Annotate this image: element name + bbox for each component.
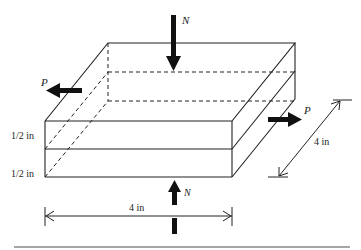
block-shear-diagram: N N P P 1/2 in 1/2 in 4 in 4 in [0,0,361,250]
normal-force-bottom-arrow-icon [168,180,181,234]
layer-thickness-bottom-label: 1/2 in [11,168,34,179]
shear-force-right-label: P [303,104,311,116]
normal-force-top-label: N [181,14,190,26]
shear-force-right-arrow-icon [268,112,302,127]
layer-thickness-top-label: 1/2 in [11,130,34,141]
width-dimension-label: 4 in [129,202,144,213]
shear-force-left-arrow-icon [46,83,82,98]
depth-dimension-label: 4 in [314,136,329,147]
normal-force-bottom-label: N [183,187,192,198]
shear-force-left-label: P [40,76,48,88]
